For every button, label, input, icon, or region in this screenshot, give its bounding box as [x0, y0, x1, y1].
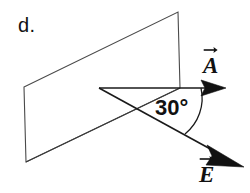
angle-measure-label: 30°	[155, 97, 188, 119]
vector-a-letter: A	[203, 53, 218, 78]
vector-diagram-panel-d: d. 30° A E	[0, 0, 250, 193]
vector-a-label: A	[203, 54, 218, 77]
plane-outline	[24, 12, 180, 162]
parallelogram-plane	[24, 12, 180, 162]
vector-e-label: E	[199, 163, 214, 186]
right-arrow-accent-icon	[203, 45, 218, 54]
panel-label: d.	[18, 15, 36, 35]
vector-e-letter: E	[199, 162, 214, 187]
right-arrow-accent-icon	[199, 154, 214, 163]
vector-a-arrowhead	[201, 80, 226, 96]
